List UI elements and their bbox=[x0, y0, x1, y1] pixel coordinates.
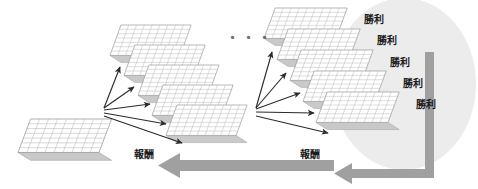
diagram-canvas: ・・・ 勝利 勝利 勝利 勝利 勝利 報酬 報酬 bbox=[0, 0, 478, 189]
candidate-board-5 bbox=[166, 105, 247, 143]
ellipsis-marker: ・・・ bbox=[226, 31, 274, 44]
victory-label-3: 勝利 bbox=[390, 54, 410, 69]
diagram-svg bbox=[0, 0, 478, 189]
victory-label-5: 勝利 bbox=[416, 96, 436, 111]
victory-label-2: 勝利 bbox=[377, 32, 397, 47]
reward-label-2: 報酬 bbox=[300, 146, 320, 161]
reward-label-1: 報酬 bbox=[134, 146, 154, 161]
victory-label-1: 勝利 bbox=[364, 11, 384, 26]
initial-board bbox=[18, 119, 112, 160]
terminal-board-5 bbox=[316, 92, 399, 130]
victory-label-4: 勝利 bbox=[403, 75, 423, 90]
terminal-arrow-4 bbox=[256, 112, 314, 113]
terminal-arrow-1 bbox=[256, 52, 272, 108]
transition-arrow-3 bbox=[104, 104, 150, 110]
